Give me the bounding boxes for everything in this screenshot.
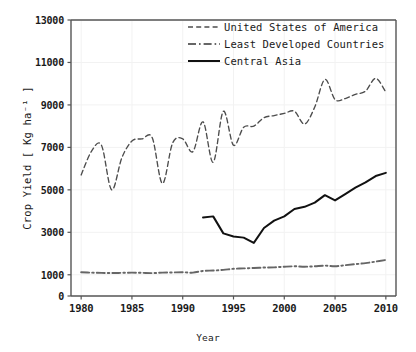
legend-line-swatch-dashed [186, 21, 222, 33]
legend-item-label: Least Developed Countries [224, 38, 385, 50]
legend-line-swatch-dash-dot [186, 38, 222, 50]
y-tick-label: 9000 [2, 99, 64, 110]
x-tick-label: 1980 [53, 302, 109, 314]
y-tick-label: 3000 [2, 227, 64, 238]
y-tick-label: 7000 [2, 142, 64, 153]
chart-figure: Crop Yield [ Kg ha⁻¹ ] 01000300050007000… [0, 0, 416, 352]
y-tick-label: 11000 [2, 57, 64, 68]
y-axis-tick-labels: 0100030005000700090001100013000 [0, 0, 64, 352]
x-tick-label: 2000 [256, 302, 312, 314]
x-tick-label: 1990 [155, 302, 211, 314]
legend-item[interactable]: Least Developed Countries [186, 35, 385, 52]
y-tick-label: 5000 [2, 184, 64, 195]
x-tick-label: 1995 [206, 302, 262, 314]
y-tick-label: 13000 [2, 15, 64, 26]
x-tick-label: 1985 [104, 302, 160, 314]
x-tick-label: 2010 [358, 302, 414, 314]
y-tick-label: 1000 [2, 269, 64, 280]
legend-line-swatch-solid [186, 55, 222, 67]
x-axis-label: Year [0, 332, 416, 343]
chart-legend: United States of AmericaLeast Developed … [186, 18, 385, 69]
y-tick-label: 0 [2, 291, 64, 302]
legend-item-label: United States of America [224, 21, 378, 33]
legend-item[interactable]: Central Asia [186, 52, 385, 69]
legend-item[interactable]: United States of America [186, 18, 385, 35]
legend-item-label: Central Asia [224, 55, 301, 67]
x-tick-label: 2005 [307, 302, 363, 314]
